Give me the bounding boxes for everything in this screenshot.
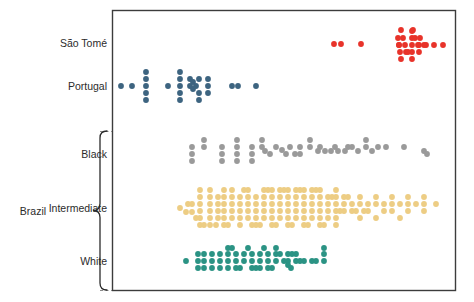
data-point — [183, 209, 189, 215]
data-point — [249, 251, 255, 257]
data-point — [225, 222, 231, 228]
data-point — [281, 187, 287, 193]
data-point — [421, 194, 427, 200]
data-point — [261, 245, 267, 251]
data-point — [297, 144, 303, 150]
data-point — [261, 201, 267, 207]
data-point — [265, 187, 271, 193]
data-point — [221, 208, 227, 214]
data-point — [381, 201, 387, 207]
data-point — [249, 222, 255, 228]
chart-canvas: São ToméPortugalBlackIntermediateWhiteBr… — [0, 0, 474, 302]
data-point — [417, 35, 423, 41]
data-point — [237, 194, 243, 200]
data-point — [207, 222, 213, 228]
data-point — [277, 208, 283, 214]
data-point — [225, 265, 231, 271]
data-point — [322, 148, 328, 154]
data-point — [357, 215, 363, 221]
data-point — [241, 187, 247, 193]
data-point — [333, 222, 339, 228]
data-point — [245, 208, 251, 214]
data-point — [201, 144, 207, 150]
data-point — [369, 148, 375, 154]
data-point — [288, 265, 294, 271]
data-point — [273, 222, 279, 228]
data-point — [325, 215, 331, 221]
data-point — [261, 194, 267, 200]
data-point — [317, 194, 323, 200]
data-point — [307, 144, 313, 150]
data-point — [201, 222, 207, 228]
data-point — [249, 144, 255, 150]
data-point — [205, 76, 211, 82]
data-point — [301, 194, 307, 200]
data-point — [215, 194, 221, 200]
data-point — [189, 151, 195, 157]
data-point — [277, 194, 283, 200]
data-point — [267, 151, 273, 157]
data-point — [229, 83, 235, 89]
data-point — [287, 144, 293, 150]
data-point — [317, 208, 323, 214]
data-point — [237, 215, 243, 221]
data-point — [207, 187, 213, 193]
data-point — [405, 194, 411, 200]
axis-label-white: White — [80, 255, 107, 267]
data-point — [177, 90, 183, 96]
data-point — [189, 209, 195, 215]
data-point — [205, 90, 211, 96]
data-point — [219, 151, 225, 157]
data-point — [177, 76, 183, 82]
data-point — [338, 41, 344, 47]
data-point — [213, 222, 219, 228]
data-point — [217, 265, 223, 271]
data-point — [277, 251, 283, 257]
data-point — [363, 137, 369, 143]
data-point — [197, 208, 203, 214]
data-point — [201, 258, 207, 264]
data-point — [215, 201, 221, 207]
data-point — [269, 208, 275, 214]
data-point — [307, 137, 313, 143]
data-point — [412, 35, 418, 41]
data-point — [317, 215, 323, 221]
data-point — [398, 27, 404, 33]
data-point — [421, 42, 427, 48]
data-point — [357, 201, 363, 207]
data-point — [183, 258, 189, 264]
data-point — [197, 187, 203, 193]
data-point — [189, 158, 195, 164]
data-point — [321, 222, 327, 228]
data-point — [196, 97, 202, 103]
data-point — [193, 83, 199, 89]
data-point — [289, 222, 295, 228]
data-point — [297, 187, 303, 193]
data-point — [197, 194, 203, 200]
data-point — [293, 215, 299, 221]
data-point — [229, 201, 235, 207]
data-point — [337, 208, 343, 214]
data-point — [118, 83, 124, 89]
data-point — [269, 265, 275, 271]
data-point — [195, 265, 201, 271]
data-point — [253, 215, 259, 221]
data-point — [395, 35, 401, 41]
data-point — [229, 245, 235, 251]
data-point — [281, 258, 287, 264]
data-point — [221, 215, 227, 221]
data-point — [421, 201, 427, 207]
data-point — [143, 83, 149, 89]
data-point — [400, 35, 406, 41]
data-point — [424, 151, 430, 157]
data-point — [333, 201, 339, 207]
data-point — [215, 208, 221, 214]
data-point — [249, 258, 255, 264]
data-point — [321, 258, 327, 264]
data-point — [237, 208, 243, 214]
data-point — [331, 41, 337, 47]
data-point — [253, 265, 259, 271]
data-point — [440, 42, 446, 48]
data-point — [195, 251, 201, 257]
data-point — [257, 258, 263, 264]
